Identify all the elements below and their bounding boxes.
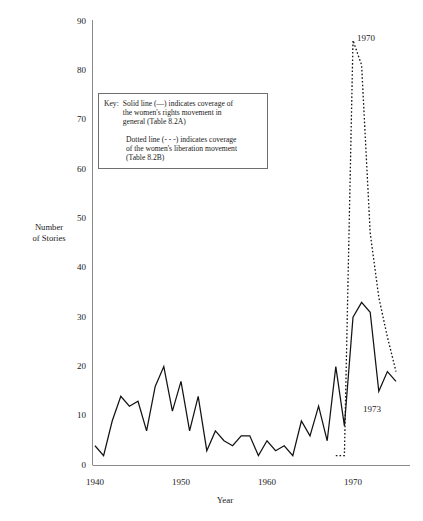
series-line-womens-liberation <box>336 40 396 455</box>
chart-figure: 90 80 70 60 50 40 30 20 10 0 1940 1950 1… <box>0 0 423 521</box>
series-line-womens-rights <box>95 302 396 455</box>
y-tick-40: 40 <box>77 262 87 272</box>
key-label: Key: <box>104 99 123 108</box>
y-tick-10: 10 <box>77 410 87 420</box>
x-tick-1940: 1940 <box>86 477 105 487</box>
key-dotted-line3: (Table 8.2B) <box>126 153 164 162</box>
x-axis-title: Year <box>217 495 234 505</box>
y-tick-20: 20 <box>77 361 87 371</box>
x-tick-1950: 1950 <box>172 477 191 487</box>
key-first-entry: Key: Solid line (—) indicates coverage o… <box>104 99 261 127</box>
key-solid-description: Solid line (—) indicates coverage of the… <box>123 99 261 127</box>
key-dotted-line2: of the women's liberation movement <box>126 144 237 153</box>
y-axis-title-line2: of Stories <box>12 233 86 244</box>
chart-canvas: 90 80 70 60 50 40 30 20 10 0 1940 1950 1… <box>0 0 423 521</box>
key-dotted-description: Dotted line (- - -) indicates coverage o… <box>104 135 261 163</box>
peak-year-label: 1970 <box>357 33 376 43</box>
key-solid-line1: Solid line (—) indicates coverage of <box>123 99 233 108</box>
x-tick-1970: 1970 <box>344 477 363 487</box>
chart-legend-key: Key: Solid line (—) indicates coverage o… <box>98 93 268 169</box>
y-tick-30: 30 <box>77 312 87 322</box>
y-tick-60: 60 <box>77 164 87 174</box>
y-tick-0: 0 <box>82 460 87 470</box>
y-tick-90: 90 <box>77 16 87 26</box>
y-tick-80: 80 <box>77 65 87 75</box>
y-axis-title: Number of Stories <box>12 222 86 244</box>
key-solid-line3: general (Table 8.2A) <box>123 117 186 126</box>
x-tick-1960: 1960 <box>258 477 277 487</box>
y-axis-title-line1: Number <box>12 222 86 233</box>
solid-trough-year-label: 1973 <box>363 404 382 414</box>
key-dotted-line1: Dotted line (- - -) indicates coverage <box>126 135 236 144</box>
y-tick-70: 70 <box>77 114 87 124</box>
key-solid-line2: the women's rights movement in <box>123 108 222 117</box>
